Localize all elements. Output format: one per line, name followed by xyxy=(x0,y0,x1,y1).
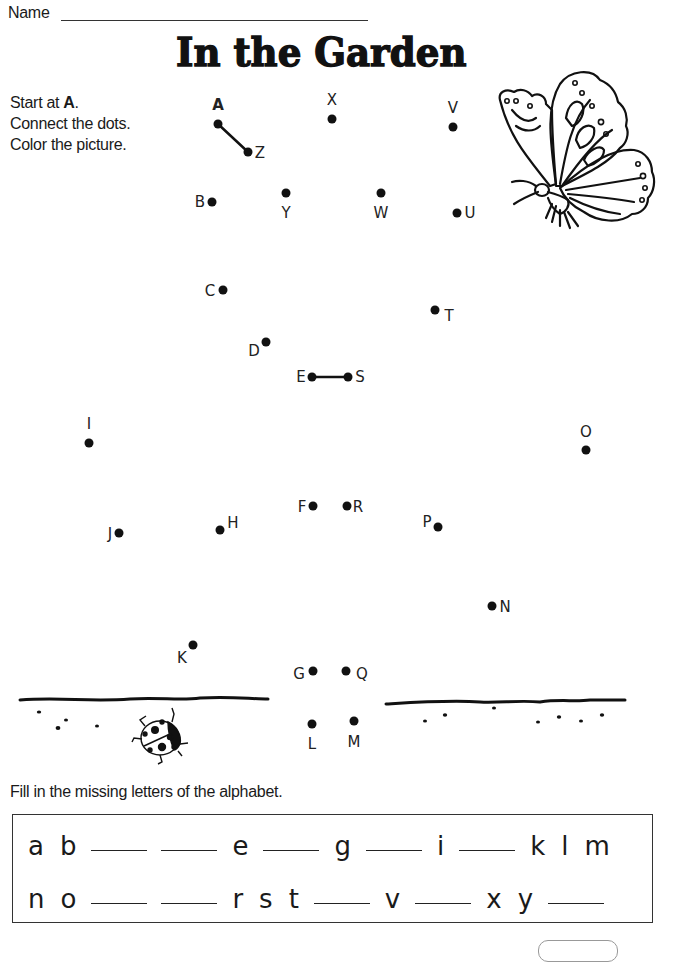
dot-label-g: G xyxy=(293,667,305,682)
dot-label-e: E xyxy=(296,370,305,385)
dot-label-n: N xyxy=(499,600,510,615)
pebbles-left xyxy=(37,710,99,730)
connected-segments xyxy=(218,124,348,377)
dot-label-q: Q xyxy=(356,667,368,682)
dot-label-k: K xyxy=(177,651,187,666)
dot-label-j: J xyxy=(108,527,112,542)
letter-y: y xyxy=(517,884,534,914)
dot-label-t: T xyxy=(444,309,453,324)
letter-k: k xyxy=(529,831,546,861)
dot-p[interactable] xyxy=(434,523,443,532)
letter-e: e xyxy=(231,831,249,861)
letter-s: s xyxy=(258,884,274,914)
dot-label-w: W xyxy=(374,206,389,221)
letter-l: l xyxy=(560,831,569,861)
letter-blank[interactable] xyxy=(415,903,471,904)
dot-label-z: Z xyxy=(255,146,265,161)
segment-a-z xyxy=(218,124,248,152)
dot-label-y: Y xyxy=(281,206,290,221)
letter-blank[interactable] xyxy=(459,850,515,851)
dot-q[interactable] xyxy=(342,667,351,676)
dot-t[interactable] xyxy=(431,306,440,315)
alphabet-row-1: abegiklm xyxy=(27,821,638,861)
letter-t: t xyxy=(288,884,300,914)
dot-l[interactable] xyxy=(308,720,317,729)
letter-blank[interactable] xyxy=(91,850,147,851)
dot-r[interactable] xyxy=(343,502,352,511)
letter-v: v xyxy=(384,884,401,914)
dot-label-d: D xyxy=(248,344,260,359)
dot-n[interactable] xyxy=(488,602,497,611)
dot-label-i: I xyxy=(87,417,91,432)
pebbles-right xyxy=(423,706,604,723)
dot-label-b: B xyxy=(195,195,205,210)
alphabet-row-2: norstvxy xyxy=(27,874,638,914)
dot-k[interactable] xyxy=(189,641,198,650)
dot-label-l: L xyxy=(308,737,316,752)
dot-label-f: F xyxy=(298,500,307,515)
dot-i[interactable] xyxy=(85,439,94,448)
page-corner-tab xyxy=(538,940,618,962)
dot-h[interactable] xyxy=(216,526,225,535)
dot-label-h: H xyxy=(227,516,238,531)
fill-prompt: Fill in the missing letters of the alpha… xyxy=(10,783,282,801)
letter-n: n xyxy=(27,884,45,914)
dot-u[interactable] xyxy=(453,209,462,218)
dot-j[interactable] xyxy=(115,529,124,538)
letter-x: x xyxy=(485,884,502,914)
dot-c[interactable] xyxy=(219,286,228,295)
letter-b: b xyxy=(59,831,78,861)
dot-label-v: V xyxy=(448,101,458,116)
letter-a: a xyxy=(27,831,45,861)
ladybug-icon xyxy=(132,708,188,764)
dot-e[interactable] xyxy=(308,373,317,382)
letter-o: o xyxy=(59,884,77,914)
dot-label-u: U xyxy=(465,206,476,221)
alphabet-box: abegiklm norstvxy xyxy=(12,814,653,923)
letter-blank[interactable] xyxy=(263,850,319,851)
dot-f[interactable] xyxy=(309,502,318,511)
letter-blank[interactable] xyxy=(161,903,217,904)
butterfly-icon xyxy=(500,72,654,228)
dot-label-x: X xyxy=(327,93,337,108)
letter-blank[interactable] xyxy=(548,903,604,904)
letter-blank[interactable] xyxy=(91,903,147,904)
letter-blank[interactable] xyxy=(366,850,422,851)
letter-m: m xyxy=(584,831,611,861)
dot-z[interactable] xyxy=(244,148,253,157)
dot-x[interactable] xyxy=(328,115,337,124)
dot-label-o: O xyxy=(580,425,592,440)
dot-v[interactable] xyxy=(449,123,458,132)
letter-blank[interactable] xyxy=(161,850,217,851)
dot-o[interactable] xyxy=(582,446,591,455)
dot-m[interactable] xyxy=(350,717,359,726)
letter-g: g xyxy=(333,831,352,861)
dot-g[interactable] xyxy=(309,667,318,676)
letter-i: i xyxy=(436,831,445,861)
dot-s[interactable] xyxy=(344,373,353,382)
dot-label-m: M xyxy=(348,735,361,750)
dot-b[interactable] xyxy=(208,198,217,207)
dot-w[interactable] xyxy=(377,189,386,198)
dot-label-s: S xyxy=(355,370,365,385)
dot-label-a: A xyxy=(212,98,224,113)
dot-label-p: P xyxy=(422,515,431,530)
dot-a[interactable] xyxy=(214,120,223,129)
letter-r: r xyxy=(231,884,244,914)
dot-y[interactable] xyxy=(282,189,291,198)
dot-d[interactable] xyxy=(262,338,271,347)
ground-right xyxy=(386,700,625,724)
letter-blank[interactable] xyxy=(314,903,370,904)
dot-label-c: C xyxy=(205,284,215,299)
dot-label-r: R xyxy=(353,500,363,515)
